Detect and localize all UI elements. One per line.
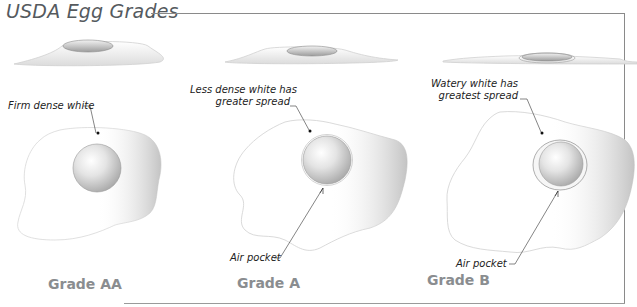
grade-label-a: Grade A [237,275,300,291]
annotation-line-2: greatest spread [420,90,518,102]
annotation-air-pocket-b: Air pocket [456,258,507,270]
annotation-watery-white: Watery white has greatest spread [420,78,518,102]
top-view-grade-b [447,99,634,264]
annotation-air-pocket-a: Air pocket [230,252,281,264]
top-view-grade-aa [18,106,161,240]
side-view-grade-a [225,46,398,64]
annotation-line-2: greater spread [190,96,290,108]
side-view-grade-aa [14,40,163,66]
side-view-grade-b [443,53,637,64]
annotation-firm-dense-white: Firm dense white [8,100,94,112]
grade-label-aa: Grade AA [48,276,122,292]
egg-illustrations [0,0,637,307]
top-view-grade-a [234,106,407,258]
annotation-line-1: Less dense white has [190,84,290,96]
annotation-less-dense-white: Less dense white has greater spread [190,84,290,108]
grade-label-b: Grade B [427,272,490,288]
annotation-line-1: Watery white has [420,78,518,90]
